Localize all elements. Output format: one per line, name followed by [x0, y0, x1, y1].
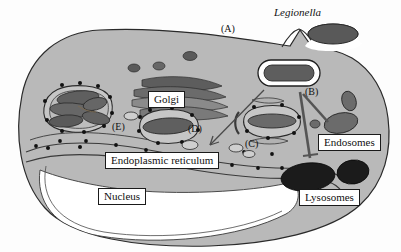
figure-canvas: Legionella (A) (B) (C) (D) (E) Golgi End…	[0, 0, 401, 252]
callout-d: (D)	[188, 124, 202, 134]
callout-a: (A)	[221, 24, 235, 34]
callout-b: (B)	[305, 87, 318, 97]
callout-c: (C)	[245, 139, 258, 149]
phagosome-cluster	[44, 86, 113, 133]
label-nucleus: Nucleus	[98, 188, 146, 205]
label-lysosomes: Lysosomes	[299, 189, 360, 206]
label-endoplasmic-reticulum: Endoplasmic reticulum	[105, 152, 219, 169]
label-endosomes: Endosomes	[318, 134, 381, 151]
organism-title: Legionella	[274, 7, 321, 18]
callout-e: (E)	[112, 122, 125, 132]
legionella-bacterium-extracellular-top	[308, 24, 358, 44]
legionella-containing-vacuole	[258, 60, 320, 86]
label-golgi: Golgi	[148, 91, 185, 108]
